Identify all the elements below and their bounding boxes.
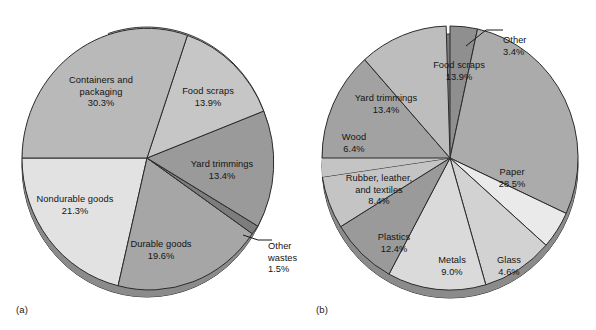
panel-caption-a: (a): [16, 304, 28, 315]
pie-a-sectors: [22, 28, 274, 290]
panel-b: Other 3.4% Food scraps 13.9% Yard trimmi…: [298, 0, 596, 330]
pie-chart-b: [298, 0, 596, 330]
pie-chart-a: [0, 0, 298, 330]
pie-b-sectors: [322, 26, 578, 290]
panel-a: Containers and packaging 30.3% Food scra…: [0, 0, 298, 330]
two-panel-pie-figure: Containers and packaging 30.3% Food scra…: [0, 0, 596, 330]
panel-caption-b: (b): [316, 304, 328, 315]
